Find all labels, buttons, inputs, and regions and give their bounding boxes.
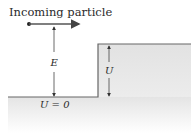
- figure-title: Incoming particle: [9, 5, 112, 19]
- floor-region-fill: [8, 97, 191, 133]
- ground-label: U = 0: [40, 99, 70, 110]
- potential-step-diagram: Incoming particle E U U = 0: [0, 0, 191, 133]
- energy-label: E: [50, 57, 59, 68]
- barrier-label: U: [105, 65, 114, 76]
